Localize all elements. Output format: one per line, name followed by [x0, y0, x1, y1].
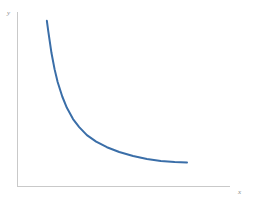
plot-area: [0, 0, 253, 204]
x-axis-label: x: [238, 189, 241, 196]
data-series-line: [47, 21, 187, 163]
y-axis-label: y: [7, 10, 10, 17]
chart-container: y x: [0, 0, 253, 204]
